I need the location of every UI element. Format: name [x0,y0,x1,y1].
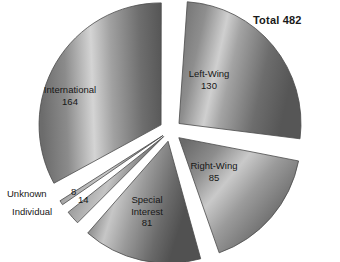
slice-label-individual-name: Individual [12,206,52,218]
slice-label-right-wing-value: 85 [191,172,238,184]
slice-label-right-wing-name: Right-Wing [191,160,238,172]
slice-label-left-wing-name: Left-Wing [189,68,230,80]
slice-label-left-wing: Left-Wing 130 [189,68,230,91]
slice-label-unknown-name: Unknown [7,188,47,200]
slice-label-special-interest: Special Interest 81 [131,194,163,229]
slice-label-international: International 164 [44,84,96,107]
slice-label-individual-value: 14 [78,194,89,205]
pie-slices [39,2,301,262]
slice-label-international-name: International [44,84,96,96]
pie-chart-figure: Total 482 Left-Wing 130 Right-Wing 85 Sp… [0,0,340,262]
pie-chart-graphic [0,0,340,262]
slice-label-unknown-value: 8 [71,186,76,197]
pie-slice-right-wing[interactable] [179,138,299,253]
slice-label-international-value: 164 [44,96,96,108]
slice-label-special-interest-name-line1: Special [131,194,163,206]
chart-title: Total 482 [253,14,302,26]
slice-label-special-interest-value: 81 [131,217,163,229]
slice-label-right-wing: Right-Wing 85 [191,160,238,183]
slice-label-special-interest-name-line2: Interest [131,206,163,218]
slice-label-left-wing-value: 130 [189,80,230,92]
